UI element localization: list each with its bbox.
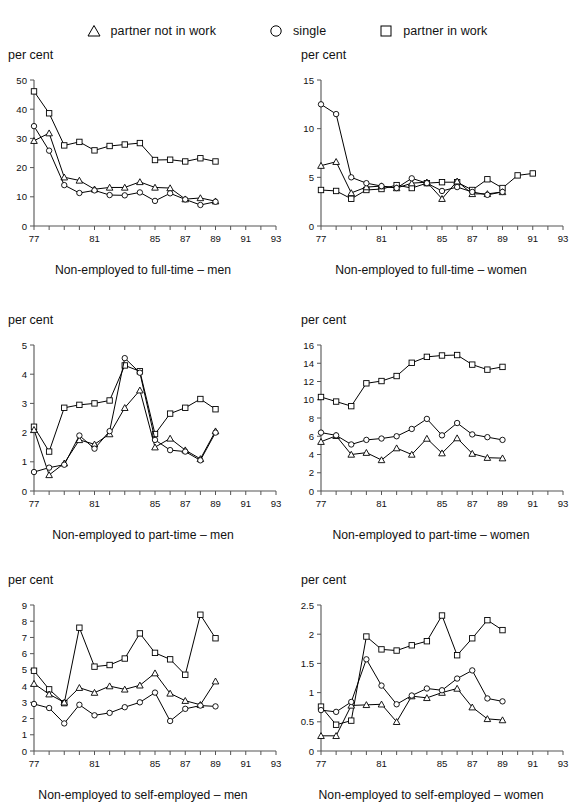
data-point-circle — [107, 428, 112, 433]
data-point-square — [137, 140, 142, 145]
data-point-square — [152, 650, 157, 655]
data-point-circle — [152, 198, 157, 203]
series-circle — [318, 416, 505, 447]
data-point-circle — [409, 176, 414, 181]
data-point-circle — [122, 193, 127, 198]
y-axis-title: per cent — [301, 573, 346, 587]
y-tick-label: 9 — [22, 600, 27, 611]
data-point-circle — [31, 123, 36, 128]
square-marker-icon — [378, 23, 394, 39]
data-point-circle — [46, 148, 51, 153]
x-tick-label: 85 — [150, 498, 161, 509]
y-axis-title: per cent — [8, 573, 53, 587]
data-point-circle — [349, 699, 354, 704]
data-point-square — [167, 657, 172, 662]
x-tick-label: 77 — [316, 758, 327, 769]
chart-grid: per cent 0102030405077818587899193 Non-e… — [0, 48, 573, 805]
x-tick-label: 93 — [271, 233, 282, 244]
x-tick-label: 85 — [437, 758, 448, 769]
data-point-circle — [92, 188, 97, 193]
data-point-triangle — [363, 449, 370, 455]
data-point-square — [167, 411, 172, 416]
data-point-circle — [439, 188, 444, 193]
x-tick-label: 85 — [150, 758, 161, 769]
data-point-circle — [318, 430, 323, 435]
data-point-circle — [213, 430, 218, 435]
x-tick-label: 93 — [558, 758, 569, 769]
data-point-circle — [394, 185, 399, 190]
data-point-square — [198, 156, 203, 161]
data-point-circle — [183, 706, 188, 711]
data-point-square — [394, 373, 399, 378]
data-point-square — [439, 353, 444, 358]
data-point-circle — [333, 433, 338, 438]
data-point-circle — [31, 469, 36, 474]
chart-panel-3: per cent 024681012141677818587899193 Non… — [287, 313, 573, 565]
data-point-circle — [439, 433, 444, 438]
data-point-circle — [77, 702, 82, 707]
data-point-square — [122, 142, 127, 147]
chart-caption-3: Non-employed to part-time – women — [287, 528, 573, 543]
data-point-square — [424, 639, 429, 644]
y-tick-label: 8 — [22, 616, 27, 627]
data-point-circle — [62, 182, 67, 187]
data-point-circle — [379, 683, 384, 688]
y-tick-label: 30 — [16, 133, 27, 144]
x-tick-label: 77 — [29, 233, 40, 244]
data-point-circle — [137, 370, 142, 375]
y-tick-label: 5 — [309, 172, 314, 183]
data-point-square — [485, 367, 490, 372]
y-tick-label: 5 — [22, 340, 27, 351]
data-point-square — [424, 354, 429, 359]
data-point-circle — [424, 416, 429, 421]
data-point-square — [364, 634, 369, 639]
series-circle — [31, 355, 218, 474]
data-point-circle — [394, 702, 399, 707]
data-point-square — [92, 148, 97, 153]
series-triangle — [31, 387, 219, 478]
data-point-square — [485, 617, 490, 622]
x-tick-label: 87 — [467, 233, 478, 244]
data-point-triangle — [333, 159, 340, 165]
data-point-circle — [454, 184, 459, 189]
data-point-circle — [454, 420, 459, 425]
data-point-circle — [364, 180, 369, 185]
y-tick-label: 15 — [303, 75, 314, 86]
data-point-circle — [364, 437, 369, 442]
data-point-circle — [485, 696, 490, 701]
series-line — [321, 659, 503, 712]
chart-svg-1: 05101577818587899193 — [287, 70, 573, 256]
y-tick-label: 4 — [22, 369, 28, 380]
data-point-triangle — [76, 685, 83, 691]
data-point-square — [31, 89, 36, 94]
data-point-circle — [318, 707, 323, 712]
data-point-circle — [92, 446, 97, 451]
x-tick-label: 81 — [376, 498, 387, 509]
chart-caption-2: Non-employed to part-time – men — [0, 528, 286, 543]
data-point-square — [379, 647, 384, 652]
chart-svg-2: 01234577818587899193 — [0, 335, 286, 521]
x-tick-label: 81 — [89, 758, 100, 769]
data-point-circle — [46, 705, 51, 710]
data-point-square — [213, 159, 218, 164]
data-point-square — [122, 656, 127, 661]
data-point-square — [213, 636, 218, 641]
y-tick-label: 2 — [22, 427, 27, 438]
chart-caption-1: Non-employed to full-time – women — [287, 263, 573, 278]
x-tick-label: 77 — [29, 498, 40, 509]
data-point-circle — [77, 433, 82, 438]
data-point-square — [409, 643, 414, 648]
x-tick-label: 93 — [271, 498, 282, 509]
y-tick-label: 7 — [22, 632, 27, 643]
data-point-square — [364, 381, 369, 386]
y-axis-title: per cent — [8, 48, 53, 62]
data-point-square — [333, 188, 338, 193]
data-point-square — [213, 407, 218, 412]
y-tick-label: 50 — [16, 75, 27, 86]
chart-svg-5: 00.511.522.577818587899193 — [287, 595, 573, 781]
x-tick-label: 91 — [240, 758, 251, 769]
data-point-triangle — [348, 190, 355, 196]
data-point-circle — [122, 355, 127, 360]
x-tick-label: 87 — [467, 498, 478, 509]
data-point-circle — [122, 705, 127, 710]
